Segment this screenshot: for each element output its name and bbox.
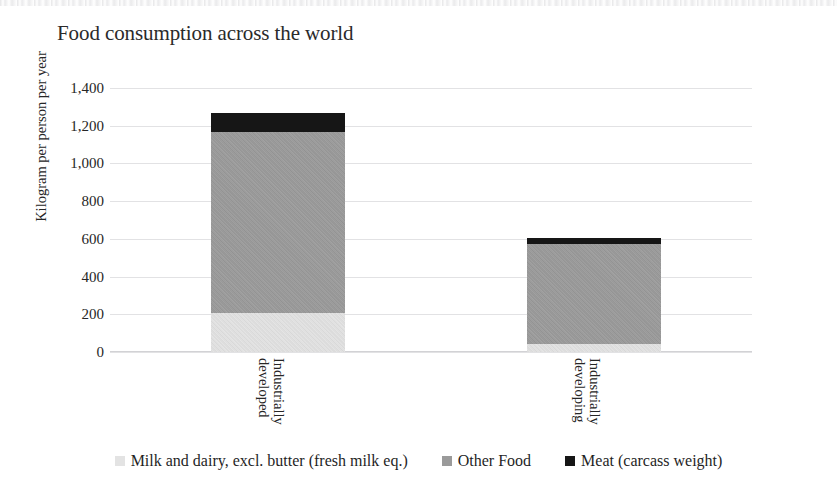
gridline — [110, 352, 752, 353]
legend-item[interactable]: Other Food — [442, 452, 531, 470]
legend-swatch-icon — [442, 456, 452, 466]
bar-segment[interactable] — [527, 344, 661, 352]
x-axis-category-label-line: developed — [256, 358, 271, 478]
gridline — [110, 88, 752, 89]
legend-label: Other Food — [458, 452, 531, 470]
gridline — [110, 163, 752, 164]
x-axis-category-label-line: Industrially — [271, 358, 286, 478]
legend-label: Meat (carcass weight) — [581, 452, 722, 470]
gridline — [110, 126, 752, 127]
gridline — [110, 201, 752, 202]
x-axis-category-label-line: Industrially — [587, 358, 602, 478]
chart-legend: Milk and dairy, excl. butter (fresh milk… — [0, 452, 837, 470]
bar-segment[interactable] — [211, 113, 345, 132]
chart-title: Food consumption across the world — [57, 21, 354, 46]
legend-swatch-icon — [115, 456, 125, 466]
bar-segment[interactable] — [211, 132, 345, 313]
x-axis-category-label-line: developing — [572, 358, 587, 478]
y-axis-tick-labels: 02004006008001,0001,2001,400 — [40, 88, 104, 352]
y-axis-tick-label: 800 — [44, 193, 104, 210]
bar-column[interactable] — [211, 113, 345, 352]
plot-area — [110, 88, 752, 352]
y-axis-tick-label: 600 — [44, 230, 104, 247]
x-axis-category-label: Industriallydeveloped — [256, 358, 286, 478]
y-axis-tick-label: 1,000 — [44, 155, 104, 172]
chart-canvas: Food consumption across the world Kilogr… — [0, 0, 837, 481]
bar-segment[interactable] — [211, 313, 345, 352]
bar-column[interactable] — [527, 238, 661, 352]
y-axis-tick-label: 1,200 — [44, 117, 104, 134]
y-axis-tick-label: 200 — [44, 306, 104, 323]
bar-segment[interactable] — [527, 244, 661, 344]
y-axis-tick-label: 0 — [44, 344, 104, 361]
y-axis-tick-label: 1,400 — [44, 80, 104, 97]
x-axis-category-label: Industriallydeveloping — [572, 358, 602, 478]
y-axis-tick-label: 400 — [44, 268, 104, 285]
